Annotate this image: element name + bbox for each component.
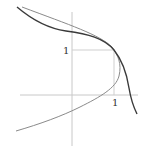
y-unit-label: 1 [63, 45, 69, 56]
parabola-curve [16, 7, 120, 131]
x-unit-label: 1 [112, 97, 118, 108]
function-diagram: 1 1 [0, 0, 155, 155]
